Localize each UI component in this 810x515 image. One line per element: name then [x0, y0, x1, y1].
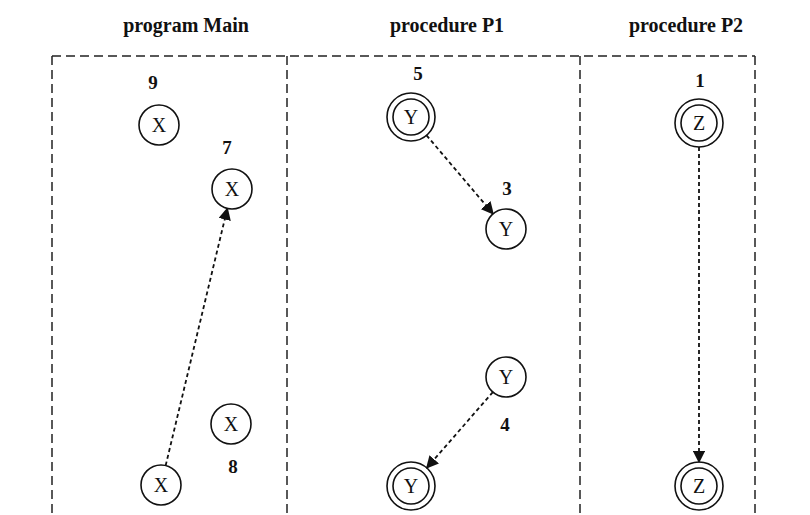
- nodes: X9X7X8XY5Y3Y4YZ1Z: [139, 63, 723, 510]
- edge-arrow-p1-y-4-to-p1-y-bottom: [427, 392, 493, 468]
- node-number-label: 1: [695, 70, 705, 91]
- edge-arrow-p1-y-5-to-p1-y-3: [427, 135, 494, 213]
- node-symbol: X: [224, 413, 239, 435]
- node-p1-y-bottom: Y: [387, 462, 435, 510]
- node-main-x-8: X8: [211, 404, 251, 477]
- node-number-label: 3: [502, 178, 512, 199]
- node-symbol: Y: [404, 475, 418, 497]
- node-symbol: Y: [404, 106, 418, 128]
- node-p2-z-1: Z1: [675, 70, 723, 147]
- node-symbol: Y: [499, 366, 513, 388]
- node-main-x-bottom: X: [141, 465, 181, 505]
- node-symbol: X: [225, 178, 240, 200]
- node-symbol: Y: [499, 218, 513, 240]
- node-symbol: Z: [693, 112, 705, 134]
- node-p1-y-5: Y5: [387, 63, 435, 141]
- node-symbol: X: [154, 474, 169, 496]
- scope-diagram: X9X7X8XY5Y3Y4YZ1Z: [0, 0, 810, 515]
- node-p2-z-bottom: Z: [675, 462, 723, 510]
- node-number-label: 8: [228, 456, 238, 477]
- node-main-x-9: X9: [139, 72, 179, 145]
- node-number-label: 9: [148, 72, 158, 93]
- node-number-label: 4: [500, 414, 510, 435]
- node-symbol: X: [152, 114, 167, 136]
- node-number-label: 7: [222, 137, 232, 158]
- node-symbol: Z: [693, 475, 705, 497]
- node-number-label: 5: [413, 63, 423, 84]
- node-main-x-7: X7: [212, 137, 252, 209]
- node-p1-y-4: Y4: [486, 357, 526, 435]
